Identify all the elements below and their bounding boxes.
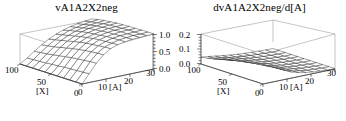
y-axis-label-right: [X]	[217, 86, 230, 96]
z-tick-left-1: 0.5	[159, 47, 171, 57]
figure-container: vA1A2X2neg	[0, 0, 346, 121]
x-tick-right-30: 30	[327, 68, 337, 78]
x-axis-label-left: [A]	[109, 82, 122, 92]
x-axis-label-right: [A]	[290, 82, 303, 92]
x-tick-right-20: 20	[305, 76, 315, 86]
y-tick-right-100: 100	[187, 65, 201, 75]
z-tick-right-1: 0.1	[179, 44, 190, 54]
z-tick-left-0: 0.0	[159, 64, 171, 74]
x-tick-left-20: 20	[124, 76, 134, 86]
x-tick-right-0: 0	[259, 87, 264, 97]
surface-plot-left: 1.0 0.5 0.0 100 50 0 [X] 0	[0, 12, 173, 121]
z-tick-left-2: 1.0	[159, 30, 171, 40]
y-tick-left-100: 100	[5, 65, 19, 75]
x-tick-left-0: 0	[78, 87, 83, 97]
z-axis-right-panel	[197, 34, 201, 64]
plot-panel-dvA1A2X2neg-dA: dvA1A2X2neg/d[A]	[173, 0, 346, 121]
z-tick-right-2: 0.2	[179, 30, 190, 40]
plot-panel-vA1A2X2neg: vA1A2X2neg	[0, 0, 173, 121]
y-axis-label-left: [X]	[36, 86, 49, 96]
y-axis-right-panel	[198, 64, 263, 86]
surface-mesh-right	[201, 49, 335, 73]
surface-mesh-left	[20, 19, 154, 84]
z-axis-left-panel	[153, 34, 157, 69]
x-tick-right-10: 10	[279, 82, 289, 92]
x-tick-left-30: 30	[146, 68, 156, 78]
x-tick-left-10: 10	[98, 82, 108, 92]
surface-plot-right: 0.2 0.1 0.0 100 50 0 [X] 0	[173, 12, 346, 121]
